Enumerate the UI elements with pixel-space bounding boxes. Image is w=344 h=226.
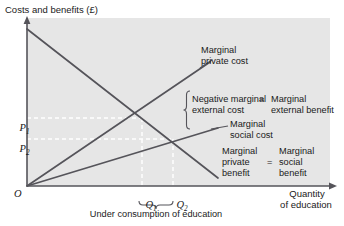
x-axis-title-line2: of education bbox=[268, 199, 344, 210]
price-tick-p2: P2 bbox=[9, 132, 30, 168]
under-consumption-caption: Under consumption of education bbox=[56, 209, 256, 220]
external-cost-brace bbox=[184, 91, 191, 129]
guide-lines bbox=[27, 118, 173, 186]
origin-label: O bbox=[14, 188, 22, 199]
marginal-benefit-curve bbox=[27, 29, 218, 178]
label-negative-marginal-external-cost-line1: Negative marginal bbox=[192, 94, 266, 105]
equals-sign-bottom: = bbox=[267, 157, 272, 168]
label-marginal-private-benefit-line1: Marginal bbox=[222, 146, 257, 157]
marginal-private-cost-curve bbox=[27, 62, 210, 186]
curves bbox=[27, 29, 218, 186]
y-axis-arrowhead bbox=[24, 16, 31, 24]
label-marginal-private-cost-line2: private cost bbox=[201, 56, 248, 67]
label-negative-marginal-external-cost-line2: external cost bbox=[192, 105, 244, 116]
label-marginal-private-cost-line1: Marginal bbox=[201, 45, 236, 56]
equals-sign-top: = bbox=[259, 94, 264, 105]
label-marginal-social-benefit-line1: Marginal bbox=[279, 146, 314, 157]
label-marginal-external-benefit-line1: Marginal bbox=[271, 94, 306, 105]
label-marginal-social-cost-line2: social cost bbox=[230, 130, 273, 141]
label-marginal-social-benefit-line3: benefit bbox=[279, 168, 307, 179]
label-marginal-private-benefit-line2: private bbox=[222, 157, 250, 168]
label-marginal-external-benefit-line2: external benefit bbox=[271, 105, 334, 116]
marginal-social-cost-curve bbox=[27, 128, 218, 186]
label-marginal-social-cost-line1: Marginal bbox=[230, 119, 265, 130]
leader-marginal-social-cost bbox=[211, 126, 228, 129]
economics-diagram: Costs and benefits (£) bbox=[0, 0, 344, 226]
label-marginal-private-benefit-line3: benefit bbox=[222, 168, 250, 179]
x-axis-title-line1: Quantity bbox=[274, 188, 340, 199]
label-marginal-social-benefit-line2: social bbox=[279, 157, 303, 168]
